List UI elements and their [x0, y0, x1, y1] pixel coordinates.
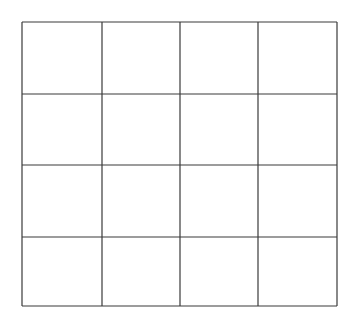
grid-cell-r4-c2	[102, 237, 180, 306]
grid-cell-r3-c4	[258, 165, 337, 237]
grid-cell-r1-c2	[102, 22, 180, 94]
grid-cell-r4-c4	[258, 237, 337, 306]
grid-cell-r3-c1	[22, 165, 102, 237]
grid-cell-r2-c2	[102, 94, 180, 165]
grid-diagram	[0, 0, 357, 326]
grid-cell-r1-c1	[22, 22, 102, 94]
grid-cell-r4-c3	[180, 237, 258, 306]
grid-cell-r3-c3	[180, 165, 258, 237]
grid-cell-r4-c1	[22, 237, 102, 306]
grid-cell-r2-c4	[258, 94, 337, 165]
grid-cell-r2-c1	[22, 94, 102, 165]
grid-cell-r1-c3	[180, 22, 258, 94]
grid-cell-r3-c2	[102, 165, 180, 237]
grid-cell-r2-c3	[180, 94, 258, 165]
grid-cell-r1-c4	[258, 22, 337, 94]
